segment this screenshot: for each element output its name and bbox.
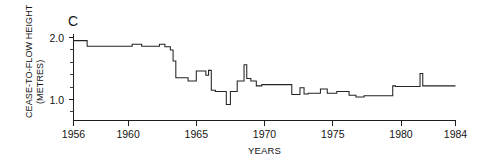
x-tick-label-1965: 1965 [185, 128, 209, 140]
x-axis-title: YEARS [248, 145, 281, 156]
chart-figure: 2.0 1.0 1956 1960 1965 1970 1975 1980 19… [0, 0, 481, 159]
y-axis-major-ticks [69, 38, 74, 100]
x-tick-label-1984: 1984 [444, 128, 468, 140]
x-tick-label-1970: 1970 [253, 128, 277, 140]
chart-plot-area: 2.0 1.0 1956 1960 1965 1970 1975 1980 19… [0, 0, 481, 159]
y-axis-title-line1: CEASE-TO-FLOW HEIGHT [24, 4, 34, 118]
y-tick-label-1: 1.0 [49, 94, 64, 106]
x-tick-label-1975: 1975 [321, 128, 345, 140]
y-axis-title: CEASE-TO-FLOW HEIGHT (METRES) [24, 4, 45, 118]
y-axis-title-line2: (METRES) [35, 60, 45, 104]
x-tick-label-1960: 1960 [116, 128, 140, 140]
x-axis-ticks [74, 121, 456, 126]
data-series-line [74, 41, 456, 105]
x-tick-label-1956: 1956 [62, 128, 86, 140]
panel-label: C [68, 13, 78, 29]
y-tick-label-2: 2.0 [49, 32, 64, 44]
x-tick-label-1980: 1980 [389, 128, 413, 140]
